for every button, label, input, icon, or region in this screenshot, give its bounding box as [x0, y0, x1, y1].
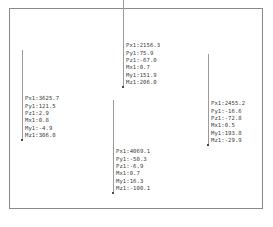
callout-value-row: Px1:4069.1: [116, 148, 150, 155]
callout-value-row: Mz1:-100.1: [116, 185, 150, 192]
callout-leader-line: [123, 0, 124, 87]
callout-anchor-marker: [21, 139, 23, 141]
callout-leader-line: [22, 50, 23, 140]
measurement-callout[interactable]: Px1:2156.3Py1:75.9Pz1:-67.0Mx1:0.7My1:15…: [123, 42, 193, 87]
callout-label: Px1:4069.1Py1:-50.3Pz1:-6.9Mx1:0.7My1:16…: [116, 148, 150, 193]
callout-anchor-marker: [122, 86, 124, 88]
callout-anchor-marker: [112, 192, 114, 194]
callout-value-row: Px1:2156.3: [126, 42, 160, 49]
measurement-callout[interactable]: Px1:3625.7Py1:121.5Pz1:2.9Mx1:0.8My1:-4.…: [22, 95, 92, 140]
callout-value-row: Mz1:-29.9: [211, 137, 245, 144]
callout-label: Px1:3625.7Py1:121.5Pz1:2.9Mx1:0.8My1:-4.…: [25, 95, 59, 140]
callout-label: Px1:2156.3Py1:75.9Pz1:-67.0Mx1:0.7My1:15…: [126, 42, 160, 87]
callout-value-row: My1:193.8: [211, 130, 245, 137]
callout-value-row: Mx1:0.8: [25, 117, 59, 124]
callout-value-row: My1:16.3: [116, 178, 150, 185]
callout-value-row: Py1:-50.3: [116, 156, 150, 163]
callout-anchor-marker: [207, 144, 209, 146]
callout-value-row: Mx1:0.7: [116, 170, 150, 177]
measurement-callout[interactable]: Px1:4069.1Py1:-50.3Pz1:-6.9Mx1:0.7My1:16…: [113, 148, 183, 193]
callout-value-row: Py1:121.5: [25, 103, 59, 110]
callout-value-row: Py1:75.9: [126, 50, 160, 57]
annotation-viewport: Px1:3625.7Py1:121.5Pz1:2.9Mx1:0.8My1:-4.…: [0, 0, 273, 227]
callout-value-row: Px1:3625.7: [25, 95, 59, 102]
callout-label: Px1:2455.2Py1:-16.6Pz1:-72.8Mx1:0.5My1:1…: [211, 100, 245, 145]
callout-value-row: Py1:-16.6: [211, 108, 245, 115]
callout-value-row: My1:-4.9: [25, 125, 59, 132]
callout-value-row: Pz1:2.9: [25, 110, 59, 117]
callout-value-row: Mx1:0.7: [126, 64, 160, 71]
callout-value-row: Mz1:206.0: [126, 79, 160, 86]
callout-value-row: Pz1:-6.9: [116, 163, 150, 170]
callout-value-row: Pz1:-67.0: [126, 57, 160, 64]
measurement-callout[interactable]: Px1:2455.2Py1:-16.6Pz1:-72.8Mx1:0.5My1:1…: [208, 100, 273, 145]
callout-value-row: Mx1:0.5: [211, 122, 245, 129]
callout-leader-line: [208, 54, 209, 145]
callout-value-row: Pz1:-72.8: [211, 115, 245, 122]
callout-value-row: My1:151.9: [126, 72, 160, 79]
callout-value-row: Mz1:306.0: [25, 132, 59, 139]
callout-leader-line: [113, 100, 114, 193]
callout-value-row: Px1:2455.2: [211, 100, 245, 107]
